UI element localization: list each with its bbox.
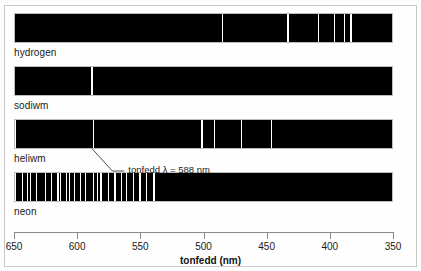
spectral-line <box>93 120 94 148</box>
spectral-line <box>100 173 101 201</box>
spectral-line <box>57 173 58 201</box>
spectral-line <box>139 173 140 201</box>
spectral-line <box>222 14 223 42</box>
spectral-line <box>350 14 351 42</box>
axis-tick <box>204 232 205 239</box>
spectral-line <box>93 173 94 201</box>
callout-label: tonfedd λ = 588 nm <box>128 164 210 175</box>
spectral-line <box>334 14 335 42</box>
axis-tick-label: 450 <box>258 241 275 252</box>
axis-tick <box>267 232 268 239</box>
spectral-line <box>97 173 98 201</box>
spectral-line <box>14 173 15 201</box>
axis-tick-label: 600 <box>69 241 86 252</box>
spectrum-label-hydrogen: hydrogen <box>14 47 57 58</box>
spectrum-label-sodiwm: sodiwm <box>14 100 49 111</box>
spectral-line <box>66 173 67 201</box>
axis-end-tick <box>14 232 15 239</box>
spectral-line <box>126 173 127 201</box>
emission-spectra-figure: hydrogensodiwmheliwmneon 650600550500450… <box>0 0 421 271</box>
spectral-line <box>60 173 61 201</box>
spectral-line <box>114 173 115 201</box>
spectral-line <box>146 173 147 201</box>
spectral-line <box>153 173 154 201</box>
axis-tick-label: 400 <box>321 241 338 252</box>
axis-end-tick <box>393 232 394 239</box>
spectral-line <box>91 67 92 95</box>
spectrum-strip-heliwm <box>14 119 393 149</box>
spectral-line <box>51 173 52 201</box>
spectral-line <box>201 120 202 148</box>
spectral-line <box>22 173 23 201</box>
axis-title: tonfedd (nm) <box>0 255 421 266</box>
spectral-line <box>45 173 46 201</box>
spectral-line <box>27 173 28 201</box>
spectral-line <box>108 173 109 201</box>
axis-tick-label: 650 <box>6 241 23 252</box>
spectral-line <box>30 173 31 201</box>
spectral-line <box>214 120 215 148</box>
spectrum-strip-neon <box>14 172 393 202</box>
spectrum-label-neon: neon <box>14 206 37 217</box>
spectral-line <box>287 14 288 42</box>
spectral-line <box>271 120 272 148</box>
spectral-line <box>241 120 242 148</box>
spectrum-strip-sodiwm <box>14 66 393 96</box>
spectral-line <box>36 173 37 201</box>
spectral-line <box>121 173 122 201</box>
axis-tick-label: 550 <box>132 241 149 252</box>
spectral-line <box>69 173 70 201</box>
spectral-line <box>318 14 319 42</box>
spectrum-strip-hydrogen <box>14 13 393 43</box>
axis-tick <box>330 232 331 239</box>
spectral-line <box>344 14 345 42</box>
spectral-line <box>74 173 75 201</box>
spectrum-label-heliwm: heliwm <box>14 153 46 164</box>
spectral-line <box>133 173 134 201</box>
axis-tick-label: 500 <box>195 241 212 252</box>
spectral-line <box>14 120 15 148</box>
axis-tick <box>140 232 141 239</box>
axis-tick <box>77 232 78 239</box>
spectral-line <box>85 173 86 201</box>
spectral-line <box>80 173 81 201</box>
axis-tick-label: 350 <box>385 241 402 252</box>
